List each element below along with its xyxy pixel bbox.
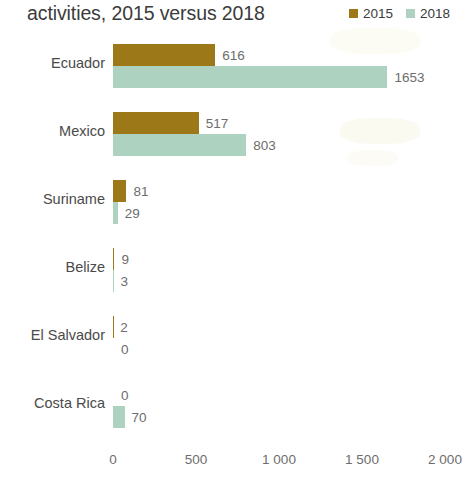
bar-2015[interactable] [113,248,114,270]
bar-value-label: 803 [253,138,276,153]
category-label: Belize [0,259,105,275]
bar-2018[interactable] [113,134,246,156]
legend-item-2018[interactable]: 2018 [406,6,450,21]
bar-row: 0 [113,384,129,406]
category-label: Suriname [0,191,105,207]
bar-value-label: 81 [133,184,148,199]
x-axis-tick: 1 500 [345,452,379,467]
bar-value-label: 616 [222,48,245,63]
bar-2015[interactable] [113,44,215,66]
bar-row: 3 [113,270,128,292]
bar-value-label: 1653 [394,70,424,85]
bar-row: 2 [113,316,128,338]
legend-label-2015: 2015 [363,6,393,21]
chart-title: activities, 2015 versus 2018 [27,2,265,25]
bar-value-label: 70 [132,410,147,425]
category-label: El Salvador [0,327,105,343]
bar-value-label: 517 [206,116,229,131]
x-axis-tick: 1 000 [262,452,296,467]
bar-row: 70 [113,406,147,428]
bar-group: Suriname8129 [0,180,448,226]
x-axis-tick: 0 [109,452,117,467]
bar-2015[interactable] [113,180,126,202]
plot-area: Ecuador6161653Mexico517803Suriname8129Be… [0,36,448,451]
bar-value-label: 0 [121,342,129,357]
bar-row: 9 [113,248,129,270]
legend-swatch-2015 [349,9,358,18]
bar-group: Ecuador6161653 [0,44,448,90]
bar-group: Mexico517803 [0,112,448,158]
bar-group: Costa Rica070 [0,384,448,430]
category-label: Ecuador [0,55,105,71]
bar-row: 0 [113,338,129,360]
bar-2018[interactable] [113,202,118,224]
x-axis-tick: 2 000 [428,452,462,467]
legend-item-2015[interactable]: 2015 [349,6,393,21]
bar-value-label: 0 [121,388,129,403]
bar-value-label: 9 [121,252,129,267]
x-axis-tick: 500 [185,452,208,467]
category-label: Mexico [0,123,105,139]
bar-group: Belize93 [0,248,448,294]
category-label: Costa Rica [0,395,105,411]
bar-row: 29 [113,202,140,224]
chart-legend: 2015 2018 [349,6,450,21]
bar-value-label: 29 [125,206,140,221]
bar-2018[interactable] [113,406,125,428]
bar-row: 517 [113,112,228,134]
bar-2015[interactable] [113,112,199,134]
bar-2018[interactable] [113,66,387,88]
legend-label-2018: 2018 [420,6,450,21]
bar-row: 616 [113,44,245,66]
bar-row: 81 [113,180,148,202]
x-axis: 05001 0001 5002 000 [0,452,448,482]
bar-value-label: 2 [120,320,128,335]
bar-row: 1653 [113,66,424,88]
bar-value-label: 3 [120,274,128,289]
bar-row: 803 [113,134,276,156]
legend-swatch-2018 [406,9,415,18]
bar-group: El Salvador20 [0,316,448,362]
